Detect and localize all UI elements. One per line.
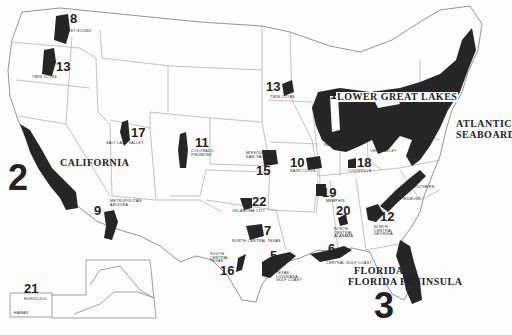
us-urban-regions-map: 8 PUGET SOUND 13 TWIN CITIES 2 CALIFORNI… [0, 0, 512, 335]
region-number-14: 13 [56, 60, 70, 73]
region-name-piedmont: PIEDMONT [400, 198, 421, 202]
region-number-6: 6 [328, 242, 335, 255]
region-name-salt-lake-valley: SALT LAKE VALLEY [106, 142, 144, 146]
region-number-15: 15 [256, 164, 270, 177]
region-name-twin-cities: TWIN CITIES [270, 96, 295, 100]
region-number-2: 2 [8, 160, 28, 196]
region-name-central-indiana: CENTRAL INDIANA [324, 140, 344, 147]
region-number-19: 19 [322, 186, 336, 199]
region-number-3: 3 [374, 288, 394, 324]
region-name-lower-great-lakes: LOWER GREAT LAKES [336, 92, 458, 102]
region-name-saint-louis: SAINT LOUIS [290, 170, 316, 174]
region-number-20: 20 [336, 204, 350, 217]
region-name-metropolitan-arizona: METROPOLITAN ARIZONA [110, 200, 132, 207]
region-name-texas-louisiana-gulf-coast: TEXAS-LOUISIANA GULF COAST [276, 272, 306, 283]
region-number-12: 12 [380, 210, 394, 223]
region-number-18: 18 [357, 156, 371, 169]
region-name-missouri-kaw-valley: MISSOURI-KAW VALLEY [246, 152, 276, 159]
region-number-7: 7 [264, 224, 271, 237]
region-name-florida-peninsula: FLORIDA PENINSULA [348, 277, 462, 287]
region-name-louisville: LOUISVILLE [348, 170, 372, 174]
region-name-north-central-alabama: NORTH CENTRAL ALABAMA [334, 228, 360, 239]
region-number-8: 8 [70, 12, 77, 25]
region-number-22: 22 [252, 195, 266, 208]
region-number-10: 10 [290, 156, 304, 169]
region-number-17: 17 [131, 126, 145, 139]
region-name-southern: SOUTHERN [412, 186, 435, 190]
region-name-north-central-texas: NORTH CENTRAL TEXAS [232, 240, 281, 244]
region-number-11: 11 [195, 136, 209, 149]
region-name-colorado-piedmont: COLORADO PIEDMONT [191, 150, 215, 157]
region-number-21: 21 [24, 282, 38, 295]
region-number-16: 16 [220, 264, 234, 277]
region-number-5: 5 [270, 249, 277, 262]
region-name-oklahoma-city: OKLAHOMA CITY [232, 210, 265, 214]
region-name-north-central-georgia: NORTH CENTRAL GEORGIA [374, 226, 402, 237]
region-name-honolulu: HONOLULU [24, 298, 46, 302]
region-name-willamette-valley: TWIN CITIES [32, 76, 57, 80]
region-number-13: 13 [266, 80, 280, 93]
region-name-ohio-valley: OHIO VALLEY [370, 150, 397, 154]
region-name-atlantic-seaboard: ATLANTIC SEABOARD [456, 118, 512, 140]
region-name-puget-sound: PUGET SOUND [62, 30, 92, 34]
region-name-california: CALIFORNIA [60, 158, 129, 168]
inset-label-hawaii: HAWAII [14, 312, 28, 316]
region-number-9: 9 [94, 204, 101, 217]
region-name-florida: FLORIDA [354, 266, 404, 276]
